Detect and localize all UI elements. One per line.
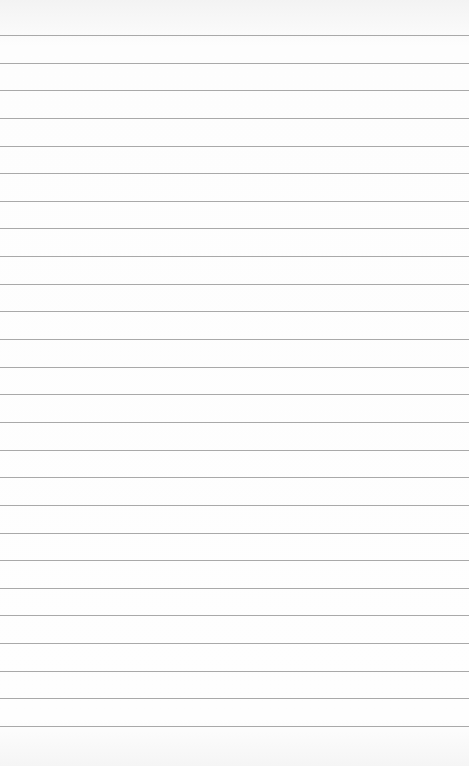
- ruled-line: [0, 146, 469, 147]
- ruled-line: [0, 228, 469, 229]
- ruled-line: [0, 477, 469, 478]
- ruled-line: [0, 533, 469, 534]
- ruled-line: [0, 35, 469, 36]
- ruled-line: [0, 201, 469, 202]
- ruled-line: [0, 118, 469, 119]
- ruled-line: [0, 422, 469, 423]
- lined-paper: [0, 0, 469, 766]
- ruled-line: [0, 256, 469, 257]
- ruled-line: [0, 588, 469, 589]
- ruled-line: [0, 90, 469, 91]
- ruled-line: [0, 560, 469, 561]
- ruled-line: [0, 339, 469, 340]
- ruled-line: [0, 615, 469, 616]
- ruled-line: [0, 698, 469, 699]
- ruled-line: [0, 394, 469, 395]
- ruled-line: [0, 505, 469, 506]
- ruled-line: [0, 726, 469, 727]
- ruled-line: [0, 173, 469, 174]
- ruled-line: [0, 450, 469, 451]
- ruled-line: [0, 367, 469, 368]
- ruled-line: [0, 284, 469, 285]
- ruled-line: [0, 311, 469, 312]
- ruled-line: [0, 643, 469, 644]
- ruled-line: [0, 671, 469, 672]
- ruled-line: [0, 63, 469, 64]
